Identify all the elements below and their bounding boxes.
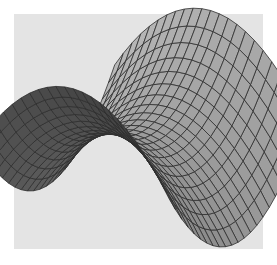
saddle-surface-mesh xyxy=(0,0,277,265)
